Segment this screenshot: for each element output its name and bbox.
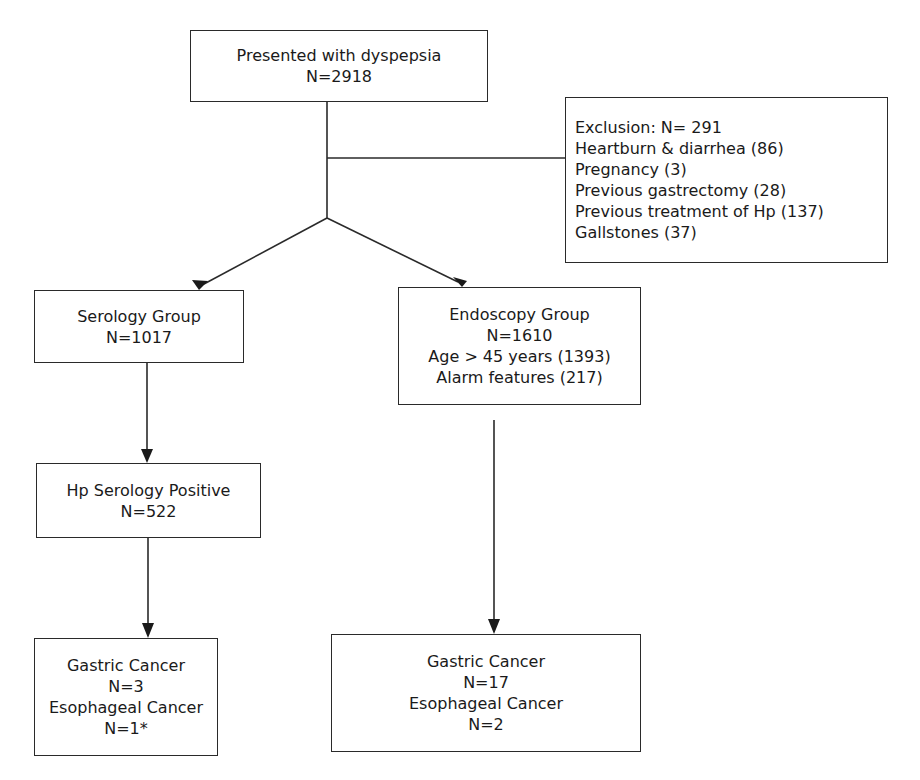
esophageal-cancer-count: N=1* <box>104 718 148 739</box>
arrowhead-icon <box>141 449 153 463</box>
endoscopy-group-count: N=1610 <box>486 325 552 346</box>
start-node-count: N=2918 <box>306 66 372 87</box>
esophageal-cancer-count: N=2 <box>468 714 504 735</box>
serology-group-count: N=1017 <box>106 327 172 348</box>
hp-positive-node: Hp Serology Positive N=522 <box>36 463 261 538</box>
gastric-cancer-label: Gastric Cancer <box>67 655 185 676</box>
exclusion-reason: Heartburn & diarrhea (86) <box>575 138 784 159</box>
arrowhead-icon <box>192 280 208 290</box>
hp-positive-title: Hp Serology Positive <box>67 480 231 501</box>
arrowhead-icon <box>488 619 500 634</box>
arrowhead-icon <box>142 623 154 638</box>
serology-outcome-node: Gastric Cancer N=3 Esophageal Cancer N=1… <box>34 638 218 756</box>
endoscopy-group-node: Endoscopy Group N=1610 Age > 45 years (1… <box>398 287 641 405</box>
esophageal-cancer-label: Esophageal Cancer <box>409 693 563 714</box>
start-node-title: Presented with dyspepsia <box>237 45 442 66</box>
gastric-cancer-count: N=17 <box>463 672 509 693</box>
start-node: Presented with dyspepsia N=2918 <box>190 30 488 102</box>
gastric-cancer-label: Gastric Cancer <box>427 651 545 672</box>
esophageal-cancer-label: Esophageal Cancer <box>49 697 203 718</box>
hp-positive-count: N=522 <box>121 501 177 522</box>
exclusion-reason: Previous gastrectomy (28) <box>575 180 786 201</box>
endoscopy-group-criterion: Alarm features (217) <box>436 367 602 388</box>
exclusion-reason: Pregnancy (3) <box>575 159 687 180</box>
arrowhead-icon <box>453 277 467 287</box>
gastric-cancer-count: N=3 <box>108 676 144 697</box>
endoscopy-group-title: Endoscopy Group <box>449 304 590 325</box>
exclusion-node: Exclusion: N= 291 Heartburn & diarrhea (… <box>565 97 888 263</box>
exclusion-reason: Gallstones (37) <box>575 222 697 243</box>
serology-group-node: Serology Group N=1017 <box>34 290 244 363</box>
endoscopy-branch-line <box>327 218 458 282</box>
exclusion-reason: Previous treatment of Hp (137) <box>575 201 824 222</box>
endoscopy-group-criterion: Age > 45 years (1393) <box>428 346 610 367</box>
exclusion-total: Exclusion: N= 291 <box>575 117 722 138</box>
serology-group-title: Serology Group <box>77 306 201 327</box>
endoscopy-outcome-node: Gastric Cancer N=17 Esophageal Cancer N=… <box>331 634 641 752</box>
serology-branch-line <box>204 218 327 284</box>
